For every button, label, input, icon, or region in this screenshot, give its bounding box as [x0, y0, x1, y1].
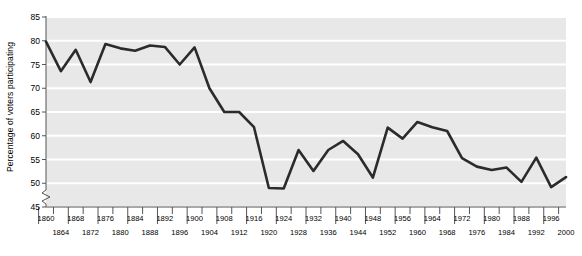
y-axis-tick-label: 45	[18, 202, 40, 212]
x-axis-tick-label-top: 1964	[424, 214, 441, 223]
x-axis-tick-label-top: 1932	[305, 214, 322, 223]
x-axis-tick-label-bottom: 1904	[201, 228, 218, 237]
y-axis-tick-label: 80	[18, 36, 40, 46]
x-axis-tick-label-top: 1972	[454, 214, 471, 223]
x-axis-tick-label-top: 1924	[275, 214, 292, 223]
voter-turnout-line-chart: Percentage of voters participating 45505…	[0, 0, 582, 256]
x-axis-tick-label-bottom: 1880	[112, 228, 129, 237]
x-axis-tick-label-bottom: 2000	[558, 228, 575, 237]
x-axis-tick-label-top: 1900	[186, 214, 203, 223]
x-axis-tick-label-bottom: 1952	[379, 228, 396, 237]
x-axis-tick-label-bottom: 1992	[528, 228, 545, 237]
x-axis-tick-label-bottom: 1984	[498, 228, 515, 237]
x-axis-tick-label-top: 1884	[127, 214, 144, 223]
x-axis-tick-label-top: 1940	[335, 214, 352, 223]
x-axis-tick-label-bottom: 1976	[468, 228, 485, 237]
x-axis-tick-label-top: 1908	[216, 214, 233, 223]
x-axis-tick-label-bottom: 1888	[142, 228, 159, 237]
x-axis-tick-label-top: 1868	[67, 214, 84, 223]
x-axis-tick-label-top: 1860	[38, 214, 55, 223]
x-axis-tick-label-top: 1996	[543, 214, 560, 223]
x-axis-tick-label-top: 1892	[156, 214, 173, 223]
x-axis-tick-label-bottom: 1928	[290, 228, 307, 237]
y-axis-tick-label: 70	[18, 83, 40, 93]
x-axis-ticks	[39, 207, 559, 224]
x-axis-tick-label-bottom: 1944	[350, 228, 367, 237]
x-axis-tick-label-top: 1876	[97, 214, 114, 223]
x-axis-tick-label-bottom: 1936	[320, 228, 337, 237]
y-axis-tick-label: 55	[18, 155, 40, 165]
x-axis-tick-label-top: 1916	[246, 214, 263, 223]
x-axis-tick-label-top: 1948	[364, 214, 381, 223]
x-axis-tick-label-bottom: 1912	[231, 228, 248, 237]
x-axis-tick-label-top: 1988	[513, 214, 530, 223]
x-axis-tick-label-top: 1980	[483, 214, 500, 223]
x-axis-tick-label-bottom: 1896	[171, 228, 188, 237]
x-axis-tick-label-bottom: 1960	[409, 228, 426, 237]
x-axis-tick-label-bottom: 1968	[439, 228, 456, 237]
y-axis-tick-label: 85	[18, 12, 40, 22]
x-axis-tick-label-bottom: 1920	[260, 228, 277, 237]
x-axis-tick-label-bottom: 1864	[52, 228, 69, 237]
x-axis-tick-label-top: 1956	[394, 214, 411, 223]
y-axis-tick-label: 60	[18, 131, 40, 141]
y-axis-tick-label: 65	[18, 107, 40, 117]
y-axis-tick-label: 50	[18, 178, 40, 188]
x-axis-tick-label-bottom: 1872	[82, 228, 99, 237]
y-axis-tick-label: 75	[18, 60, 40, 70]
